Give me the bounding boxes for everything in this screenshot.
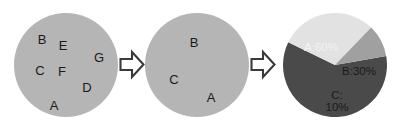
- set-item-f: F: [58, 65, 66, 78]
- set-item-c: C: [35, 64, 44, 77]
- right-block-arrow-icon: [250, 49, 276, 80]
- circle-set-full: BEGCFDA: [14, 13, 118, 117]
- set-item-c: C: [169, 73, 178, 86]
- set-item-b: B: [38, 33, 47, 46]
- set-item-a: A: [207, 91, 216, 104]
- right-block-arrow-icon: [119, 49, 145, 80]
- pie-label-c: C: 10%: [325, 89, 348, 113]
- pie-label-a: A:60%: [304, 41, 338, 53]
- set-item-e: E: [59, 39, 68, 52]
- pie-label-b: B:30%: [342, 65, 376, 77]
- set-item-g: G: [94, 51, 104, 64]
- set-item-d: D: [82, 81, 91, 94]
- circle-set-reduced: BCA: [145, 13, 249, 117]
- diagram-canvas: BEGCFDA BCA A:60%B:30%C: 10%: [0, 0, 395, 126]
- set-item-a: A: [50, 99, 59, 112]
- set-item-b: B: [190, 36, 199, 49]
